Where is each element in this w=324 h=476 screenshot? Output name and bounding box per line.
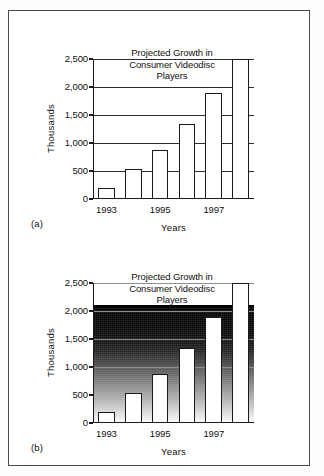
x-tick-label-1995: 1995 <box>150 428 171 439</box>
x-tick-label-1995: 1995 <box>150 204 171 215</box>
bar-1996[interactable] <box>179 124 196 199</box>
y-tick-mark <box>89 114 93 115</box>
y-tick-label: 1,000 <box>65 138 88 148</box>
chart-b: 05001,0001,5002,0002,500199319951997 Pro… <box>9 243 311 467</box>
gridline <box>93 311 254 312</box>
chart-title-line-2: Consumer Videodisc <box>113 283 231 295</box>
x-tick-label-1993: 1993 <box>96 204 117 215</box>
gridline <box>93 339 254 340</box>
y-tick-label: 500 <box>72 166 88 176</box>
x-tick-label-1993: 1993 <box>96 428 117 439</box>
x-axis-line-a <box>93 198 254 199</box>
y-tick-label: 1,000 <box>65 362 88 372</box>
x-tick-label-1997: 1997 <box>203 204 224 215</box>
y-tick-mark <box>89 86 93 87</box>
chart-title-line-3: Players <box>113 294 231 306</box>
bar-1998[interactable] <box>232 283 249 423</box>
y-tick-label: 0 <box>83 194 88 204</box>
bar-1997[interactable] <box>205 93 222 199</box>
bar-1996[interactable] <box>179 348 196 423</box>
chart-title-line-2: Consumer Videodisc <box>113 59 231 71</box>
chart-title-a: Projected Growth in Consumer Videodisc P… <box>113 47 231 82</box>
chart-title-line-3: Players <box>113 70 231 82</box>
y-tick-label: 500 <box>72 390 88 400</box>
x-axis-line-b <box>93 422 254 423</box>
y-tick-label: 1,500 <box>65 110 88 120</box>
y-axis-line-b <box>93 283 94 423</box>
y-tick-mark <box>89 58 93 59</box>
x-axis-label-b: Years <box>93 446 254 457</box>
bar-1993[interactable] <box>98 188 115 199</box>
y-axis-label-b: Thousands <box>45 328 56 377</box>
chart-background-gradient <box>93 307 254 423</box>
gridline <box>93 115 254 116</box>
panel-label-b: (b) <box>31 442 43 453</box>
bar-1995[interactable] <box>152 150 169 199</box>
bar-1994[interactable] <box>125 169 142 199</box>
chart-title-line-1: Projected Growth in <box>113 47 231 59</box>
y-tick-mark <box>89 142 93 143</box>
y-tick-label: 2,500 <box>65 278 88 288</box>
y-axis-line-a <box>93 59 94 199</box>
y-tick-label: 2,000 <box>65 306 88 316</box>
x-tick-label-1997: 1997 <box>203 428 224 439</box>
figure-frame: 05001,0001,5002,0002,500199319951997 Pro… <box>8 10 310 466</box>
chart-title-line-1: Projected Growth in <box>113 271 231 283</box>
x-axis-label-a: Years <box>93 222 254 233</box>
bar-1998[interactable] <box>232 59 249 199</box>
y-tick-mark <box>89 170 93 171</box>
y-tick-label: 0 <box>83 418 88 428</box>
gridline <box>93 143 254 144</box>
y-tick-mark <box>89 198 93 199</box>
y-tick-label: 1,500 <box>65 334 88 344</box>
y-tick-label: 2,500 <box>65 54 88 64</box>
gridline <box>93 367 254 368</box>
bar-1994[interactable] <box>125 393 142 423</box>
gridline <box>93 171 254 172</box>
bar-1995[interactable] <box>152 374 169 423</box>
panel-label-a: (a) <box>31 218 43 229</box>
chart-a: 05001,0001,5002,0002,500199319951997 Pro… <box>9 11 311 243</box>
y-axis-label-a: Thousands <box>45 104 56 153</box>
bar-1997[interactable] <box>205 317 222 423</box>
gridline <box>93 87 254 88</box>
y-tick-label: 2,000 <box>65 82 88 92</box>
chart-title-b: Projected Growth in Consumer Videodisc P… <box>113 271 231 306</box>
